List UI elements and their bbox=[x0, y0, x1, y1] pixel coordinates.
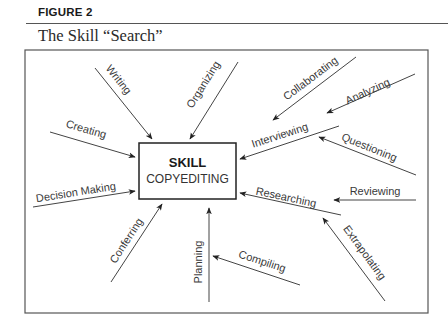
label-analyzing: Analyzing bbox=[343, 75, 391, 106]
activity-collaborating: Collaborating bbox=[273, 54, 356, 120]
skill-subtitle: COPYEDITING bbox=[146, 172, 229, 186]
label-organizing: Organizing bbox=[184, 59, 222, 110]
label-reviewing: Reviewing bbox=[350, 185, 401, 197]
label-planning: Planning bbox=[192, 241, 204, 284]
activity-researching: Researching bbox=[240, 185, 341, 215]
skill-box-border bbox=[139, 143, 236, 199]
activity-extrapolating: Extrapolating bbox=[323, 218, 389, 301]
label-conferring: Conferring bbox=[107, 216, 145, 266]
label-researching: Researching bbox=[255, 185, 318, 210]
label-questioning: Questioning bbox=[340, 130, 399, 163]
activity-planning: Planning bbox=[192, 208, 209, 302]
activity-conferring: Conferring bbox=[107, 204, 162, 282]
activity-compiling: Compiling bbox=[213, 248, 300, 285]
skill-box: SKILL COPYEDITING bbox=[139, 143, 236, 199]
label-creating: Creating bbox=[65, 117, 108, 140]
label-collaborating: Collaborating bbox=[281, 54, 340, 103]
skill-diagram: SKILL COPYEDITING WritingOrganizingCreat… bbox=[0, 0, 448, 330]
activity-decision-making: Decision Making bbox=[33, 180, 135, 207]
skill-title: SKILL bbox=[169, 155, 207, 170]
activity-reviewing: Reviewing bbox=[334, 185, 416, 200]
activity-analyzing: Analyzing bbox=[327, 74, 415, 113]
activity-creating: Creating bbox=[50, 117, 135, 157]
activity-questioning: Questioning bbox=[319, 130, 416, 175]
activity-interviewing: Interviewing bbox=[240, 120, 339, 159]
activity-organizing: Organizing bbox=[184, 59, 238, 139]
label-writing: Writing bbox=[104, 62, 134, 96]
label-compiling: Compiling bbox=[237, 248, 287, 275]
